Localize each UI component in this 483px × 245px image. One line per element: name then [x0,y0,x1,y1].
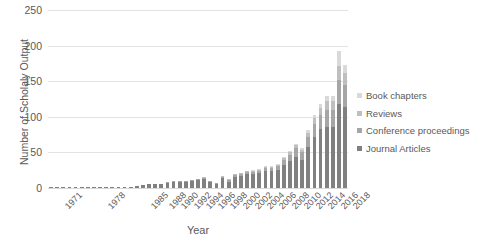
bar-segment [208,182,212,188]
bar-segment [135,186,139,188]
bar-segment [117,187,121,188]
bar-segment [331,127,335,188]
bar-stack [147,184,151,188]
bars-layer [48,10,348,188]
legend-swatch-icon [357,146,362,151]
bar-segment [202,179,206,188]
bar-stack [276,164,280,188]
bar-segment [325,127,329,188]
bar-stack [153,184,157,188]
bar-stack [239,173,243,188]
y-tick-label: 50 [30,146,42,158]
bar-stack [135,186,139,188]
legend-swatch-icon [357,111,362,116]
bar-stack [264,166,268,188]
bar-segment [227,182,231,188]
bar-stack [288,151,292,188]
bar-segment [319,115,323,129]
bar-segment [49,187,53,188]
bar-stack [129,187,133,188]
bar-segment [153,184,157,188]
bar-segment [343,85,347,106]
bar-segment [123,187,127,188]
bar-segment [282,165,286,188]
bar-stack [319,104,323,188]
bar-stack [92,187,96,188]
bar-stack [61,187,65,188]
bar-stack [123,187,127,188]
bar-stack [98,187,102,188]
bar-segment [325,110,329,127]
bar-segment [294,148,298,157]
legend-swatch-icon [357,93,362,98]
bar-segment [166,183,170,188]
bar-stack [80,187,84,188]
bar-stack [190,180,194,188]
bar-stack [300,148,304,188]
bar-stack [184,181,188,188]
bar-segment [313,137,317,188]
bar-segment [196,180,200,188]
x-axis-title: Year [48,224,348,236]
x-tick-label: 1978 [106,190,127,211]
bar-segment [68,187,72,188]
bar-stack [215,183,219,188]
legend-label: Reviews [366,108,402,119]
bar-segment [55,187,59,188]
bar-segment [141,185,145,188]
bar-segment [325,101,329,110]
bar-stack [257,169,261,188]
bar-segment [264,171,268,188]
bar-column [342,10,348,188]
bar-stack [49,187,53,188]
bar-stack [178,181,182,188]
bar-segment [331,101,335,110]
bar-segment [331,110,335,127]
bar-segment [337,51,341,66]
x-tick-labels: 1971197819851988199019921994199619982000… [48,190,348,224]
bar-segment [343,73,347,86]
bar-stack [110,187,114,188]
bar-stack [306,130,310,188]
chart-legend: Book chaptersReviewsConference proceedin… [357,90,470,154]
gridline [48,188,348,189]
bar-stack [68,187,72,188]
bar-segment [159,184,163,188]
bar-stack [343,65,347,188]
bar-chart: Number of Scholaly Output 05010015020025… [0,0,483,245]
bar-segment [276,170,280,189]
x-tick-label: 1971 [63,190,84,211]
bar-stack [202,177,206,188]
bar-segment [104,187,108,188]
bar-segment [147,184,151,188]
bar-segment [215,184,219,188]
bar-segment [74,187,78,188]
legend-swatch-icon [357,128,362,133]
bar-stack [208,181,212,188]
bar-segment [239,176,243,188]
bar-segment [343,65,347,73]
bar-segment [178,182,182,188]
bar-stack [337,51,341,188]
legend-item: Book chapters [357,90,470,101]
y-tick-label: 250 [24,4,42,16]
bar-segment [221,178,225,188]
bar-stack [233,174,237,188]
bar-stack [104,187,108,188]
legend-item: Conference proceedings [357,125,470,136]
bar-segment [92,187,96,188]
bar-stack [86,187,90,188]
x-tick-label: 1985 [149,190,170,211]
bar-segment [288,161,292,188]
bar-segment [313,124,317,137]
bar-segment [190,181,194,188]
bar-segment [337,80,341,104]
bar-stack [117,187,121,188]
legend-item: Journal Articles [357,143,470,154]
y-tick-label: 0 [36,182,42,194]
legend-label: Conference proceedings [366,125,470,136]
legend-label: Book chapters [366,90,427,101]
plot-area: 050100150200250 [48,10,348,188]
bar-segment [300,160,304,188]
legend-label: Journal Articles [366,143,430,154]
